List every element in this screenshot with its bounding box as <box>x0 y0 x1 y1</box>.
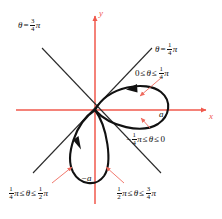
pointer-leaders-group <box>52 78 161 183</box>
ray-label-quarter-pi: θ=14π <box>155 42 177 57</box>
pointer-lower-center-right <box>106 167 124 183</box>
negative-a-label: −a <box>81 174 92 183</box>
range-label-second-petal-left: 14π≤θ≤12π <box>8 186 48 201</box>
a-label: a <box>159 110 164 119</box>
pointer-lower-right <box>141 118 150 128</box>
petal-right <box>95 86 168 129</box>
x-axis-label: x <box>209 112 213 121</box>
range-label-second-petal-right: 12π≤θ≤34π <box>116 186 156 201</box>
y-axis-label: y <box>99 9 103 18</box>
range-label-first-petal-lower: −14π≤θ≤0 <box>126 132 165 147</box>
axes-group <box>16 16 206 204</box>
pointer-lower-left <box>52 167 72 183</box>
range-label-first-petal-upper: 0≤θ≤14π <box>135 66 169 81</box>
ray-label-three-quarter-pi: θ=34π <box>18 18 40 33</box>
polar-curve-figure: y x a −a θ=34π θ=14π 0≤θ≤14π −14π≤θ≤0 14… <box>0 0 222 219</box>
